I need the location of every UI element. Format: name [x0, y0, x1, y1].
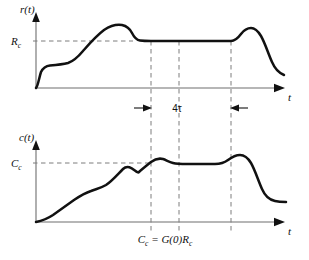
equation-rhs-sub: c — [189, 239, 193, 248]
bottom-x-axis-arrowhead — [274, 218, 285, 226]
top-plot-group: r(t) Rc t — [10, 3, 292, 130]
control-system-response-figure: r(t) Rc t 4τ — [0, 0, 309, 260]
equation-gain: G(0) — [161, 233, 182, 246]
bottom-y-axis-label: c(t) — [19, 131, 35, 144]
top-level-label: Rc — [10, 35, 22, 50]
bottom-level-label: Cc — [11, 157, 22, 172]
top-x-axis-label: t — [288, 91, 292, 103]
equation-equals: = — [148, 233, 161, 245]
steady-state-equation: Cc = G(0)Rc — [138, 233, 193, 248]
figure-canvas: r(t) Rc t 4τ — [0, 0, 309, 260]
dimension-label: 4τ — [172, 103, 182, 114]
bottom-x-axis-label: t — [288, 225, 292, 237]
top-y-axis-label: r(t) — [20, 3, 35, 16]
bottom-level-label-sub: c — [18, 163, 22, 172]
bottom-plot-group: c(t) Cc t Cc = G(0)Rc — [11, 130, 292, 248]
output-response-curve — [36, 155, 286, 222]
top-x-axis-arrowhead — [274, 84, 285, 92]
input-response-curve — [36, 25, 284, 88]
top-level-label-sub: c — [18, 41, 22, 50]
